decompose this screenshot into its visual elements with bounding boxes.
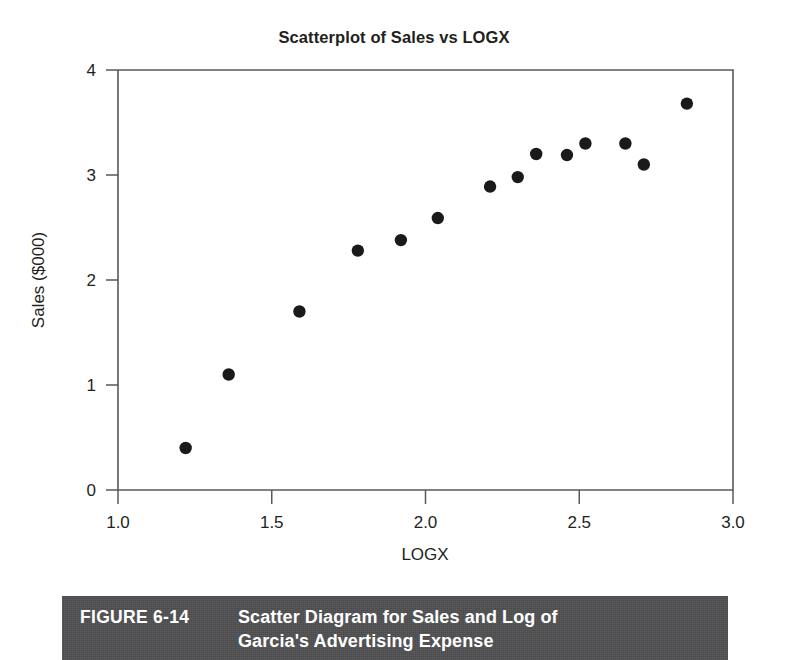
data-point [512, 171, 524, 183]
data-point [395, 234, 407, 246]
figure-container: Scatterplot of Sales vs LOGX 01234 1.01.… [0, 0, 788, 660]
x-tick-label: 1.0 [106, 513, 130, 532]
y-tick-label: 4 [87, 61, 96, 80]
y-tick-label: 1 [87, 376, 96, 395]
data-point [681, 97, 693, 109]
x-tick-label: 1.5 [260, 513, 284, 532]
data-point [619, 137, 631, 149]
data-point [432, 212, 444, 224]
y-axis-title: Sales ($000) [29, 232, 48, 328]
data-point [223, 368, 235, 380]
caption-line-1: Scatter Diagram for Sales and Log of [238, 605, 558, 629]
data-point [484, 180, 496, 192]
scatterplot-chart: Scatterplot of Sales vs LOGX 01234 1.01.… [0, 0, 788, 580]
data-point [561, 149, 573, 161]
data-point [638, 158, 650, 170]
data-point [352, 244, 364, 256]
data-point [293, 305, 305, 317]
plot-frame [118, 70, 733, 490]
figure-number-label: FIGURE 6-14 [62, 605, 238, 629]
x-tick-label: 2.0 [414, 513, 438, 532]
data-point [179, 442, 191, 454]
y-tick-label: 3 [87, 166, 96, 185]
x-axis-title: LOGX [401, 545, 448, 564]
caption-line-2: Garcia's Advertising Expense [238, 629, 558, 653]
x-tick-label: 2.5 [567, 513, 591, 532]
x-axis-ticks: 1.01.52.02.53.0 [106, 490, 745, 532]
y-tick-label: 0 [87, 481, 96, 500]
figure-caption-bar: FIGURE 6-14 Scatter Diagram for Sales an… [62, 596, 728, 660]
data-point [530, 148, 542, 160]
x-tick-label: 3.0 [721, 513, 745, 532]
y-tick-label: 2 [87, 271, 96, 290]
plot-svg: 01234 1.01.52.02.53.0 LOGX Sales ($000) [0, 0, 788, 580]
data-point [579, 137, 591, 149]
figure-caption-text: Scatter Diagram for Sales and Log of Gar… [238, 605, 558, 653]
y-axis-ticks: 01234 [87, 61, 118, 500]
data-point-series [179, 97, 693, 454]
